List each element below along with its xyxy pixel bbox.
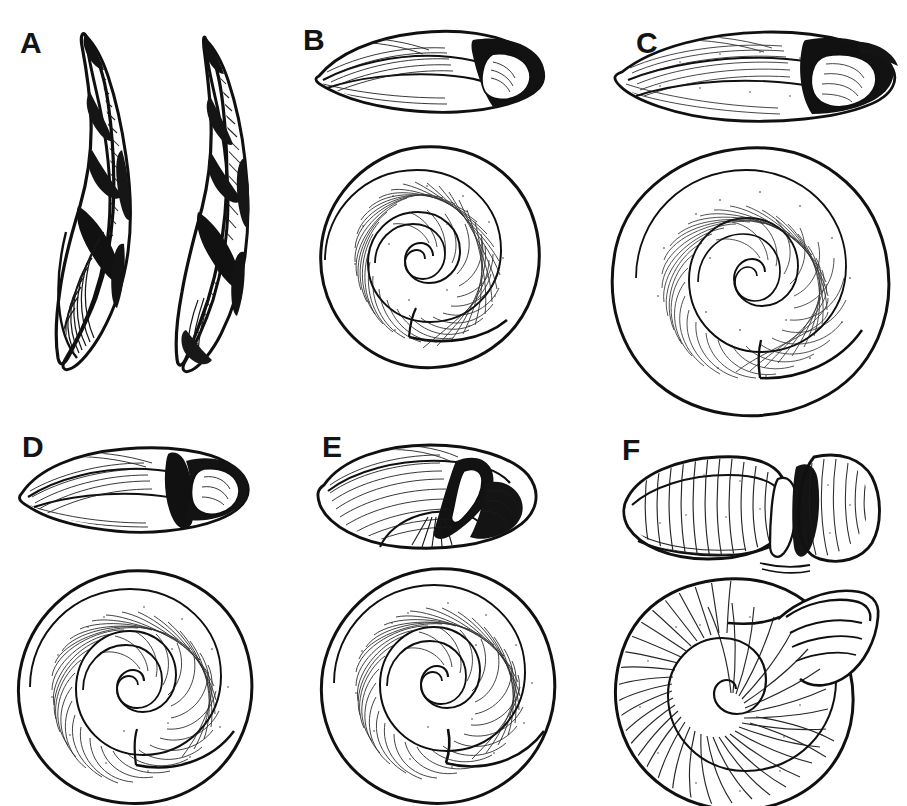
shell-d-edge-view: [19, 448, 248, 532]
shell-e-edge-view: [318, 445, 536, 548]
panel-d: D: [0, 405, 305, 806]
shell-a-left: [56, 34, 130, 370]
panel-label-e: E: [322, 432, 342, 462]
panel-label-a: A: [20, 28, 42, 58]
panel-a: A: [0, 0, 300, 400]
panel-label-c: C: [636, 28, 658, 58]
shell-f-spiral-view: [606, 573, 878, 806]
shell-c-spiral-view: [612, 148, 889, 416]
panel-b: B: [297, 0, 602, 400]
shell-b-edge-view: [316, 31, 545, 112]
panel-b-figure: [297, 0, 602, 400]
panel-f: F: [600, 405, 907, 806]
panel-c-figure: [600, 0, 907, 405]
shell-e-spiral-view: [321, 569, 554, 804]
panel-e-figure: [300, 405, 600, 806]
panel-d-figure: [0, 405, 305, 806]
panel-a-figure: [0, 0, 300, 400]
illustration-plate: A: [0, 0, 907, 806]
shell-f-edge-view: [624, 455, 880, 573]
panel-label-d: D: [22, 432, 44, 462]
panel-label-b: B: [303, 25, 325, 55]
panel-f-figure: [600, 405, 907, 806]
shell-b-spiral-view: [321, 147, 540, 368]
shell-a-right: [176, 37, 249, 371]
panel-c: C: [600, 0, 907, 405]
panel-e: E: [300, 405, 600, 806]
shell-d-spiral-view: [18, 571, 251, 804]
panel-label-f: F: [622, 435, 640, 465]
